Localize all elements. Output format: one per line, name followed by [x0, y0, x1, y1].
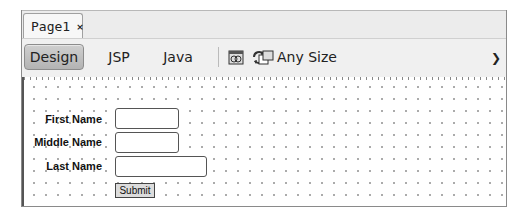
last-name-label: Last Name: [24, 160, 102, 172]
tab-label: Page1: [31, 19, 70, 34]
preview-browser-icon[interactable]: [228, 50, 244, 65]
design-canvas[interactable]: First Name Middle Name Last Name Submit: [22, 77, 506, 206]
ruler: [24, 77, 508, 80]
first-name-label: First Name: [24, 113, 102, 125]
size-select-value[interactable]: Any Size: [277, 49, 337, 65]
chevron-down-icon[interactable]: ❯: [491, 51, 501, 65]
middle-name-label: Middle Name: [24, 136, 102, 148]
editor-toolbar: Design JSP Java Any Size ❯: [22, 38, 506, 79]
toolbar-separator: [218, 47, 219, 67]
tab-page1[interactable]: Page1 ×: [23, 13, 83, 39]
jsp-view-button[interactable]: JSP: [102, 44, 136, 70]
tab-strip: Page1 ×: [22, 10, 506, 39]
java-view-button[interactable]: Java: [160, 44, 196, 70]
close-icon[interactable]: ×: [76, 22, 84, 32]
first-name-input[interactable]: [115, 108, 179, 129]
target-size-icon[interactable]: [258, 50, 274, 65]
submit-button[interactable]: Submit: [115, 183, 155, 198]
design-view-button[interactable]: Design: [24, 44, 84, 70]
middle-name-input[interactable]: [115, 132, 179, 153]
last-name-input[interactable]: [115, 156, 207, 177]
visual-editor-window: Page1 × Design JSP Java Any Size ❯: [21, 10, 507, 207]
